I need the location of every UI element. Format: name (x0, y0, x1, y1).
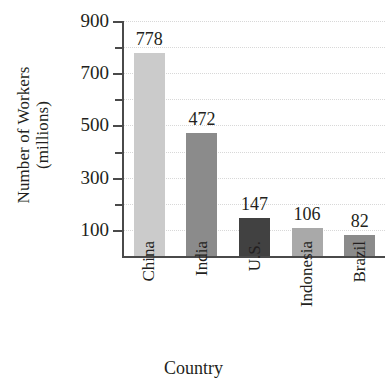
bar-value-label: 778 (136, 29, 163, 50)
y-axis-title-line1: Number of Workers (14, 67, 33, 204)
y-tick-minor (115, 47, 124, 49)
y-tick-major (113, 21, 124, 23)
gridline-minor (124, 47, 385, 48)
gridline-major (124, 21, 385, 22)
y-tick-major (113, 230, 124, 232)
x-tick-label-text: India (192, 241, 212, 276)
y-tick-major (113, 178, 124, 180)
y-tick-minor (115, 204, 124, 206)
x-axis-title: Country (0, 358, 387, 379)
bar-india: 472 (186, 133, 217, 256)
bar-china: 778 (134, 53, 165, 256)
y-tick-label: 100 (81, 219, 110, 241)
bar-value-label: 82 (351, 211, 369, 232)
x-tick-label-text: U.S. (245, 241, 265, 271)
x-tick-label-text: Indonesia (297, 241, 317, 307)
y-tick-label: 700 (81, 62, 110, 84)
y-tick-major (113, 73, 124, 75)
y-tick-label: 300 (81, 167, 110, 189)
y-tick-label: 500 (81, 114, 110, 136)
y-tick-minor (115, 152, 124, 154)
x-tick-label-text: China (139, 241, 159, 282)
y-axis-line (122, 21, 124, 256)
y-tick-major (113, 125, 124, 127)
y-axis-title: Number of Workers (millions) (0, 0, 66, 270)
y-tick-minor (115, 99, 124, 101)
bar-value-label: 147 (241, 194, 268, 215)
plot-area: 900700500300100 77847214710682 (122, 21, 385, 256)
y-tick-label: 900 (81, 10, 110, 32)
y-axis-title-line2: (millions) (33, 67, 52, 204)
bar-chart: Number of Workers (millions) 90070050030… (0, 0, 387, 388)
x-tick-label-text: Brazil (350, 241, 370, 283)
bar-value-label: 472 (188, 109, 215, 130)
bar-value-label: 106 (294, 204, 321, 225)
